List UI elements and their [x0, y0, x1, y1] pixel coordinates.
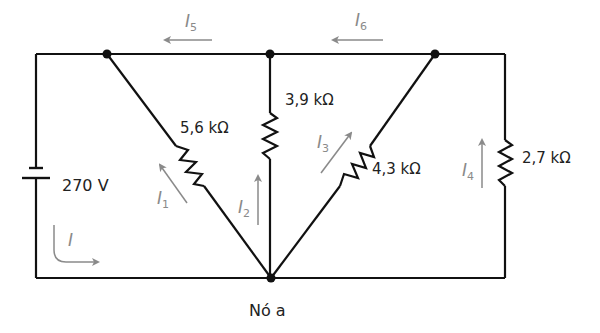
node-top-right	[431, 50, 440, 59]
current-i2-label: I2	[238, 199, 250, 219]
current-i4-label: I4	[462, 162, 474, 182]
resistor-r4	[499, 140, 512, 186]
battery-symbol	[22, 168, 50, 178]
right-diagonal-lower	[271, 186, 340, 278]
circuit-diagram	[0, 0, 600, 333]
resistor-r3-label: 4,3 kΩ	[372, 162, 421, 177]
current-i-label: I	[68, 232, 73, 249]
node-top-middle	[266, 50, 275, 59]
resistor-r3	[340, 146, 374, 186]
source-voltage-label: 270 V	[62, 178, 109, 194]
left-diagonal-upper	[107, 54, 176, 146]
node-a	[267, 274, 276, 283]
resistor-r1	[176, 146, 204, 186]
resistor-r4-label: 2,7 kΩ	[522, 151, 571, 166]
current-i3-label: I3	[317, 134, 329, 154]
resistor-r2-label: 3,9 kΩ	[285, 93, 334, 108]
current-i6-label: I6	[355, 12, 367, 32]
right-diagonal-upper	[370, 54, 435, 146]
arrow-i-icon	[54, 225, 98, 262]
resistor-r2	[263, 113, 277, 159]
node-a-label: Nó a	[249, 303, 286, 319]
current-i5-label: I5	[185, 13, 197, 33]
current-i1-label: I1	[157, 190, 169, 210]
resistor-r1-label: 5,6 kΩ	[180, 121, 229, 136]
node-top-left	[103, 50, 112, 59]
